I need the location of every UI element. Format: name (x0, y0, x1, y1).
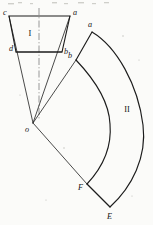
label-point-a-II: a (88, 20, 92, 29)
geometry-figure: c a d b o a b F E I II (0, 0, 153, 225)
label-point-c: c (3, 8, 7, 17)
label-point-a-I: a (73, 8, 77, 17)
ray-o-to-a (33, 16, 70, 123)
label-point-E: E (106, 212, 112, 221)
label-region-I: I (29, 29, 32, 38)
label-point-d: d (9, 44, 14, 53)
label-point-F: F (77, 183, 84, 192)
ray-o-to-F (33, 123, 87, 184)
region-labels: I II (29, 29, 130, 114)
shape-I-outline (9, 16, 70, 52)
radial-edge-a-b (76, 32, 92, 60)
label-region-II: II (124, 105, 130, 114)
inner-arc-b-F (76, 60, 110, 184)
ray-o-to-b (33, 60, 76, 123)
vertex-labels: c a d b o a b F E (3, 8, 112, 221)
figure-canvas: c a d b o a b F E I II (0, 0, 153, 225)
label-point-o: o (25, 125, 29, 134)
apex-rays (9, 16, 87, 184)
outer-arc-a-E (92, 32, 144, 207)
radial-edge-F-E (87, 184, 110, 207)
shape-II-outline (76, 32, 144, 207)
label-point-b-II: b (68, 51, 72, 60)
